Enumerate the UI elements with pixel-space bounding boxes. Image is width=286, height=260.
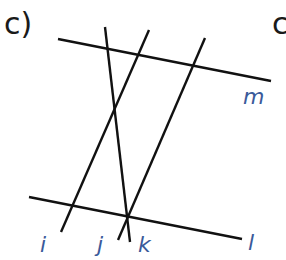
- line-j: [105, 27, 130, 242]
- label-l: l: [248, 230, 254, 255]
- line-diagram: [0, 0, 286, 260]
- label-j: j: [97, 232, 103, 257]
- label-i: i: [40, 232, 46, 257]
- label-m: m: [243, 84, 264, 109]
- line-m: [58, 39, 271, 81]
- line-l: [29, 197, 242, 239]
- label-k: k: [138, 232, 151, 257]
